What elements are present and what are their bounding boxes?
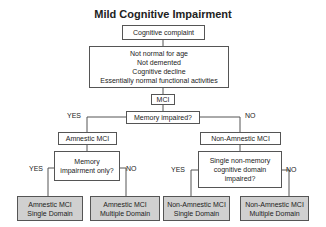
criteria-line: Not normal for age	[130, 49, 188, 58]
node-memory-impaired: Memory impaired?	[126, 111, 200, 124]
connector-no-na-multi	[282, 170, 289, 196]
node-text: impairment only?	[60, 166, 113, 175]
leaf-amnestic-multiple: Amnestic MCI Multiple Domain	[90, 196, 160, 221]
connector-yes-na-single	[191, 170, 198, 196]
node-text: Single Domain	[174, 209, 220, 218]
node-text: Memory impaired?	[134, 113, 192, 122]
connector-yes-amnestic	[87, 117, 126, 132]
leaf-non-amnestic-single: Non-Amnestic MCI Single Domain	[163, 196, 230, 221]
node-text: impaired?	[225, 174, 256, 183]
node-text: Single Domain	[27, 209, 73, 218]
node-text: Memory	[74, 157, 99, 166]
node-text: Single non-memory	[210, 156, 271, 165]
connector-no-a-multi	[120, 168, 126, 196]
connector-no-nonamnestic	[200, 117, 240, 132]
criteria-line: Essentially normal functional activities	[100, 76, 218, 85]
diagram-title: Mild Cognitive Impairment	[0, 8, 326, 20]
node-text: MCI	[157, 95, 170, 104]
node-text: Non-Amnestic MCI	[245, 200, 304, 209]
leaf-non-amnestic-multiple: Non-Amnestic MCI Multiple Domain	[240, 196, 309, 221]
node-text: Multiple Domain	[100, 209, 150, 218]
node-non-amnestic-mci: Non-Amnestic MCI	[200, 132, 281, 145]
label-yes: YES	[29, 165, 43, 172]
node-mci: MCI	[151, 94, 175, 105]
node-text: Non-Amnestic MCI	[211, 134, 270, 143]
node-text: Amnestic MCI	[66, 134, 110, 143]
node-amnestic-mci: Amnestic MCI	[58, 132, 117, 145]
node-text: Amnestic MCI	[28, 200, 72, 209]
node-cognitive-complaint: Cognitive complaint	[122, 25, 205, 40]
criteria-line: Cognitive decline	[132, 67, 185, 76]
label-no: NO	[286, 166, 297, 173]
leaf-amnestic-single: Amnestic MCI Single Domain	[17, 196, 83, 221]
node-text: Cognitive complaint	[133, 28, 194, 37]
label-no: NO	[245, 112, 256, 119]
node-text: cognitive domain	[214, 165, 267, 174]
criteria-line: Not demented	[137, 58, 181, 67]
label-yes: YES	[67, 112, 81, 119]
label-yes: YES	[171, 166, 185, 173]
node-text: Non-Amnestic MCI	[167, 200, 226, 209]
node-criteria: Not normal for age Not demented Cognitiv…	[89, 46, 229, 88]
node-text: Amnestic MCI	[103, 200, 147, 209]
label-no: NO	[126, 165, 137, 172]
node-memory-only: Memory impairment only?	[54, 151, 120, 181]
node-text: Multiple Domain	[249, 209, 299, 218]
node-single-non-memory: Single non-memory cognitive domain impai…	[198, 151, 282, 188]
